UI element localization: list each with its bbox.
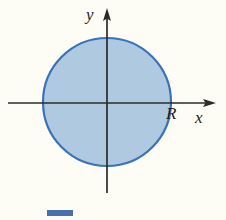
caption-color-swatch bbox=[47, 210, 73, 216]
y-axis-label: y bbox=[86, 6, 94, 23]
radius-label: R bbox=[166, 105, 176, 122]
caption-sliver bbox=[0, 210, 226, 220]
x-axis-label: x bbox=[195, 109, 203, 126]
diagram-canvas bbox=[0, 0, 226, 220]
caption-inner bbox=[47, 210, 187, 220]
figure-root: y x R bbox=[0, 0, 226, 220]
